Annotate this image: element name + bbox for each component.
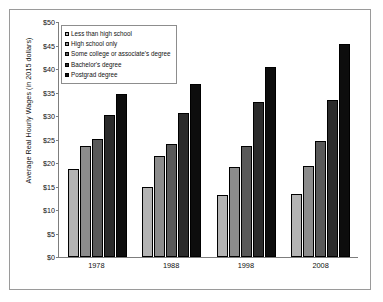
bar[interactable] <box>303 166 314 257</box>
legend-label: High school only <box>71 41 117 47</box>
y-axis-tick-mark <box>56 93 59 94</box>
y-axis-tick-label: $35 <box>43 88 55 97</box>
chart-frame: Average Real Hourly Wages (in 2015 dolla… <box>9 9 371 290</box>
x-axis-label: 2008 <box>283 261 358 270</box>
bar[interactable] <box>190 84 201 257</box>
legend-label: Less than high school <box>71 31 132 37</box>
x-axis-label: 1988 <box>134 261 209 270</box>
bar[interactable] <box>339 44 350 257</box>
legend-item[interactable]: High school only <box>65 39 173 49</box>
x-axis-label: 1978 <box>59 261 134 270</box>
y-axis-tick-mark <box>56 210 59 211</box>
legend-swatch-icon <box>65 63 69 67</box>
bar[interactable] <box>80 146 91 257</box>
y-axis-tick-mark <box>56 140 59 141</box>
bar-group <box>284 22 359 257</box>
legend-label: Some college or associate's degree <box>71 51 171 57</box>
bar[interactable] <box>154 156 165 257</box>
y-axis-tick-label: $20 <box>43 159 55 168</box>
bar[interactable] <box>104 115 115 257</box>
y-axis-title: Average Real Hourly Wages (in 2015 dolla… <box>24 16 33 206</box>
legend-swatch-icon <box>65 32 69 36</box>
bar[interactable] <box>116 94 127 257</box>
y-axis-tick-mark <box>56 69 59 70</box>
legend-item[interactable]: Postgrad degree <box>65 70 173 80</box>
legend-item[interactable]: Bachelor's degree <box>65 60 173 70</box>
y-axis-tick-label: $30 <box>43 112 55 121</box>
legend-item[interactable]: Some college or associate's degree <box>65 49 173 59</box>
bar[interactable] <box>68 169 79 257</box>
y-axis-tick-label: $5 <box>47 229 55 238</box>
legend-item[interactable]: Less than high school <box>65 29 173 39</box>
legend: Less than high schoolHigh school onlySom… <box>61 25 177 84</box>
y-axis-tick-label: $0 <box>47 253 55 262</box>
y-axis-tick-mark <box>56 187 59 188</box>
legend-label: Bachelor's degree <box>71 62 122 68</box>
legend-label: Postgrad degree <box>71 72 118 78</box>
y-axis-tick-mark <box>56 163 59 164</box>
bar[interactable] <box>291 194 302 257</box>
legend-swatch-icon <box>65 42 69 46</box>
y-axis-tick-mark <box>56 234 59 235</box>
bar[interactable] <box>92 139 103 257</box>
y-axis-tick-label: $45 <box>43 41 55 50</box>
y-axis-tick-mark <box>56 257 59 258</box>
bar-group <box>209 22 284 257</box>
y-axis-tick-label: $50 <box>43 18 55 27</box>
bar[interactable] <box>142 187 153 257</box>
y-axis-tick-label: $15 <box>43 182 55 191</box>
bar[interactable] <box>241 146 252 257</box>
legend-swatch-icon <box>65 73 69 77</box>
y-axis-tick-label: $40 <box>43 65 55 74</box>
y-axis-tick-mark <box>56 116 59 117</box>
bar[interactable] <box>327 100 338 257</box>
bar[interactable] <box>166 144 177 257</box>
y-axis-tick-label: $25 <box>43 135 55 144</box>
y-axis-tick-label: $10 <box>43 206 55 215</box>
y-axis-tick-mark <box>56 46 59 47</box>
bar[interactable] <box>253 102 264 257</box>
legend-swatch-icon <box>65 52 69 56</box>
bar[interactable] <box>229 167 240 257</box>
bar[interactable] <box>217 195 228 257</box>
bar[interactable] <box>315 141 326 257</box>
x-axis-labels: 1978198819982008 <box>59 261 358 270</box>
x-axis-label: 1998 <box>209 261 284 270</box>
bar[interactable] <box>265 67 276 257</box>
bar[interactable] <box>178 113 189 257</box>
y-axis-tick-mark <box>56 22 59 23</box>
